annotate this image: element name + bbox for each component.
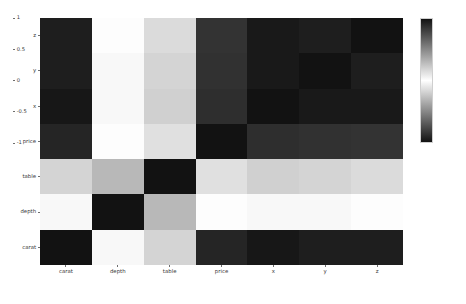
y-axis-tick-mark xyxy=(38,247,40,248)
heatmap-cell[interactable] xyxy=(196,230,248,265)
colorbar-tick-mark xyxy=(13,49,15,50)
heatmap-cell[interactable] xyxy=(40,89,92,124)
heatmap-cell[interactable] xyxy=(351,124,403,159)
heatmap-cell[interactable] xyxy=(351,194,403,229)
colorbar-tick-label: 1 xyxy=(17,15,20,20)
heatmap-cell[interactable] xyxy=(144,230,196,265)
heatmap-cell[interactable] xyxy=(247,89,299,124)
colorbar-tick-mark xyxy=(13,111,15,112)
heatmap-cell[interactable] xyxy=(196,124,248,159)
heatmap-cell[interactable] xyxy=(40,53,92,88)
heatmap-cell[interactable] xyxy=(92,124,144,159)
heatmap-cell[interactable] xyxy=(299,159,351,194)
heatmap-cell[interactable] xyxy=(40,124,92,159)
colorbar-tick-mark xyxy=(13,143,15,144)
heatmap-cell[interactable] xyxy=(247,230,299,265)
heatmap-cell[interactable] xyxy=(299,194,351,229)
heatmap-cell[interactable] xyxy=(196,18,248,53)
heatmap-cell[interactable] xyxy=(247,18,299,53)
heatmap-cell[interactable] xyxy=(92,230,144,265)
heatmap-cell[interactable] xyxy=(351,53,403,88)
heatmap-cell-grid xyxy=(40,18,403,265)
heatmap-cell[interactable] xyxy=(40,159,92,194)
colorbar-tick-label: -0.5 xyxy=(17,109,27,114)
heatmap-cell[interactable] xyxy=(351,230,403,265)
colorbar-gradient xyxy=(420,18,433,143)
heatmap-cell[interactable] xyxy=(40,18,92,53)
colorbar-tick-label: -1 xyxy=(17,140,22,145)
heatmap-plot-area xyxy=(40,18,403,265)
colorbar-tick-group: 10.50-0.5-1 xyxy=(13,18,43,143)
colorbar-tick-label: 0.5 xyxy=(17,47,25,52)
heatmap-cell[interactable] xyxy=(196,194,248,229)
heatmap-cell[interactable] xyxy=(299,124,351,159)
heatmap-cell[interactable] xyxy=(351,18,403,53)
x-axis-tick-label: carat xyxy=(59,269,73,274)
x-axis-tick-mark xyxy=(117,265,118,267)
heatmap-cell[interactable] xyxy=(351,159,403,194)
heatmap-cell[interactable] xyxy=(92,18,144,53)
y-axis-tick-label: carat xyxy=(22,245,37,250)
x-axis-tick-mark xyxy=(325,265,326,267)
x-axis-tick-label: y xyxy=(324,269,327,274)
heatmap-cell[interactable] xyxy=(144,194,196,229)
heatmap-cell[interactable] xyxy=(196,159,248,194)
heatmap-cell[interactable] xyxy=(351,89,403,124)
x-axis: caratdepthtablepricexyz xyxy=(40,265,403,287)
y-axis-tick-label: depth xyxy=(20,209,37,214)
heatmap-cell[interactable] xyxy=(92,53,144,88)
colorbar xyxy=(420,18,433,143)
heatmap-cell[interactable] xyxy=(299,230,351,265)
heatmap-cell[interactable] xyxy=(144,159,196,194)
x-axis-tick-mark xyxy=(221,265,222,267)
x-axis-tick-mark xyxy=(273,265,274,267)
heatmap-cell[interactable] xyxy=(299,53,351,88)
x-axis-tick-label: depth xyxy=(110,269,126,274)
heatmap-cell[interactable] xyxy=(247,159,299,194)
heatmap-cell[interactable] xyxy=(299,89,351,124)
x-axis-tick-label: x xyxy=(272,269,275,274)
heatmap-cell[interactable] xyxy=(144,89,196,124)
y-axis-tick-label: table xyxy=(22,174,37,179)
heatmap-cell[interactable] xyxy=(144,18,196,53)
colorbar-tick-mark xyxy=(13,80,15,81)
heatmap-cell[interactable] xyxy=(196,89,248,124)
x-axis-tick-mark xyxy=(169,265,170,267)
heatmap-cell[interactable] xyxy=(92,89,144,124)
x-axis-tick-label: z xyxy=(376,269,379,274)
heatmap-cell[interactable] xyxy=(247,124,299,159)
heatmap-cell[interactable] xyxy=(144,124,196,159)
x-axis-tick-label: price xyxy=(215,269,228,274)
colorbar-tick-mark xyxy=(13,18,15,19)
heatmap-cell[interactable] xyxy=(40,230,92,265)
y-axis-tick-mark xyxy=(38,212,40,213)
correlation-heatmap-figure: zyxpricetabledepthcarat caratdepthtablep… xyxy=(0,0,466,304)
heatmap-cell[interactable] xyxy=(299,18,351,53)
heatmap-cell[interactable] xyxy=(92,194,144,229)
heatmap-cell[interactable] xyxy=(247,53,299,88)
heatmap-cell[interactable] xyxy=(144,53,196,88)
y-axis-tick-mark xyxy=(38,176,40,177)
heatmap-cell[interactable] xyxy=(247,194,299,229)
colorbar-tick-label: 0 xyxy=(17,78,20,83)
x-axis-tick-mark xyxy=(65,265,66,267)
x-axis-tick-label: table xyxy=(163,269,177,274)
heatmap-cell[interactable] xyxy=(40,194,92,229)
heatmap-cell[interactable] xyxy=(196,53,248,88)
x-axis-tick-mark xyxy=(377,265,378,267)
heatmap-cell[interactable] xyxy=(92,159,144,194)
